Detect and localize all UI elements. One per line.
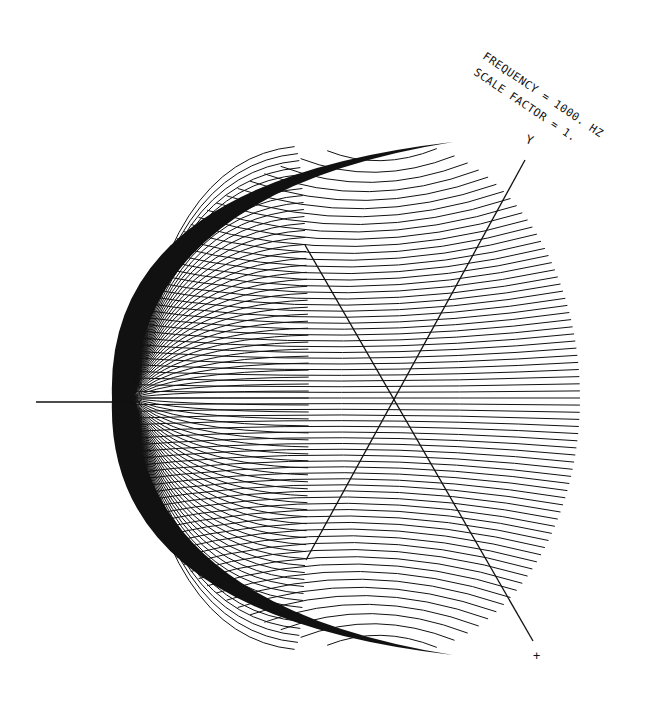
parallel-line <box>116 432 578 441</box>
parallel-line <box>177 536 537 562</box>
parallel-line <box>117 348 576 358</box>
parallel-line <box>165 522 545 547</box>
radiation-pattern-plot: FREQUENCY = 1000. HZ SCALE FACTOR = 1. Y… <box>0 0 667 703</box>
parallel-line <box>165 248 545 273</box>
parallel-line <box>117 438 576 448</box>
parallel-line <box>113 415 579 419</box>
parallel-line <box>113 377 579 381</box>
parallel-line <box>191 550 528 577</box>
parallel-line <box>112 391 580 392</box>
parallel-line <box>112 404 580 405</box>
x-axis-label: + <box>533 649 540 663</box>
wireframe-surface <box>112 142 580 656</box>
y-axis-label: Y <box>524 132 536 148</box>
parallel-line <box>159 256 548 281</box>
parallel-line <box>116 355 578 364</box>
parallel-line <box>159 516 548 541</box>
parallel-line <box>191 220 528 247</box>
